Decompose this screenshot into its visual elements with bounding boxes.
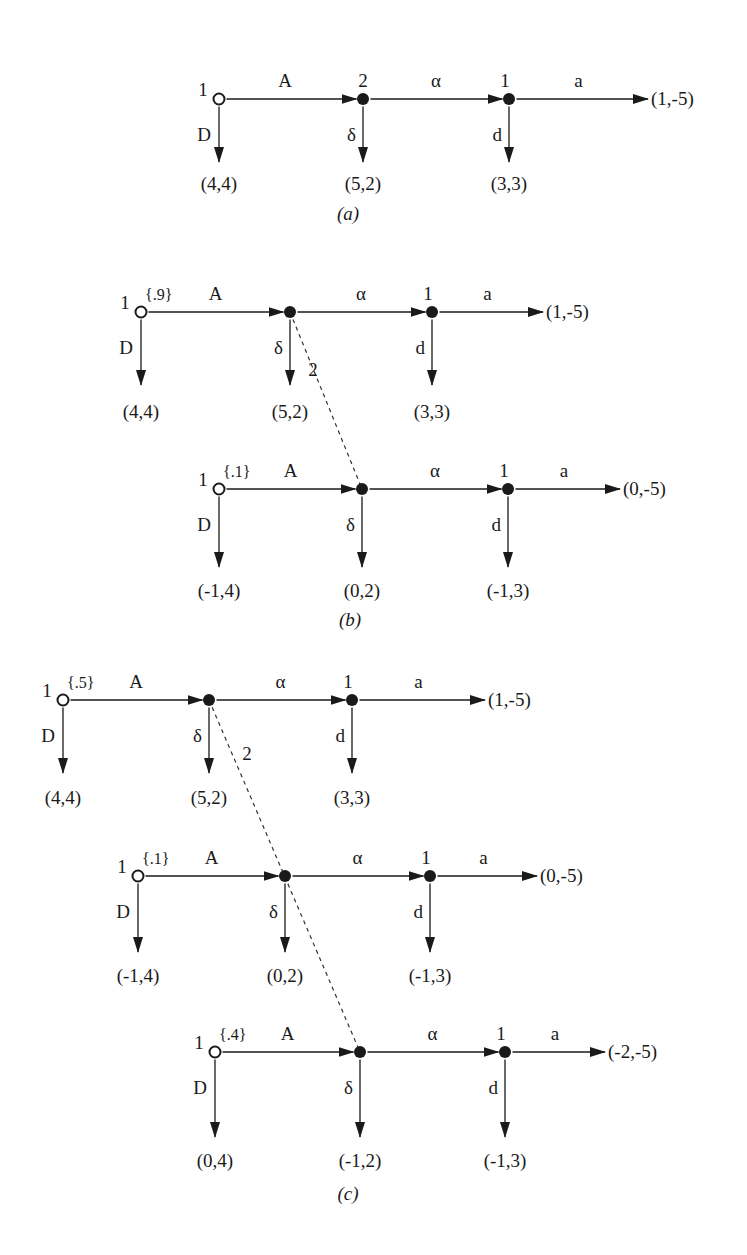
- figure-caption: (a): [337, 203, 359, 225]
- move-label-A: A: [281, 1023, 295, 1044]
- player-label: 1: [423, 283, 433, 304]
- payoff-a: (0,-5): [623, 478, 666, 500]
- move-label-a: a: [560, 460, 569, 481]
- payoff-D: (0,4): [197, 1150, 233, 1172]
- payoff-D: (4,4): [123, 401, 159, 423]
- decision-node-filled: [424, 870, 436, 882]
- move-label-alpha: α: [353, 847, 363, 868]
- prior-probability: {.9}: [145, 286, 172, 303]
- player-label: 1: [198, 79, 208, 100]
- payoff-d: (3,3): [334, 787, 370, 809]
- payoff-D: (4,4): [201, 173, 237, 195]
- move-label-d: d: [416, 337, 426, 358]
- move-label-delta: δ: [346, 514, 355, 535]
- move-label-delta: δ: [193, 725, 202, 746]
- decision-node-filled: [502, 483, 514, 495]
- decision-node-open: [214, 484, 225, 495]
- move-label-D: D: [119, 337, 133, 358]
- move-label-alpha: α: [431, 70, 441, 91]
- move-label-alpha: α: [356, 283, 366, 304]
- move-label-A: A: [284, 460, 298, 481]
- move-label-A: A: [205, 847, 219, 868]
- move-label-alpha: α: [276, 671, 286, 692]
- game-tree: 1{.1}1AαaDδd(-1,4)(0,2)(-1,3)(0,-5): [116, 847, 582, 987]
- player-label: 1: [499, 460, 509, 481]
- payoff-D: (-1,4): [198, 580, 241, 602]
- payoff-a: (0,-5): [540, 865, 583, 887]
- game-tree: 121AαaDδd(4,4)(5,2)(3,3)(1,-5): [197, 70, 693, 195]
- move-label-alpha: α: [428, 1023, 438, 1044]
- figure-caption: (b): [339, 609, 361, 631]
- payoff-a: (1,-5): [546, 301, 589, 323]
- payoff-d: (-1,3): [409, 965, 452, 987]
- decision-node-filled: [426, 306, 438, 318]
- figures-root: 121AαaDδd(4,4)(5,2)(3,3)(1,-5)(a)21{.9}1…: [41, 70, 693, 1205]
- payoff-a: (-2,-5): [608, 1041, 657, 1063]
- move-label-A: A: [278, 70, 292, 91]
- move-label-a: a: [483, 283, 492, 304]
- payoff-delta: (5,2): [272, 401, 308, 423]
- payoff-delta: (5,2): [345, 173, 381, 195]
- decision-node-filled: [354, 1046, 366, 1058]
- player-label: 1: [343, 671, 353, 692]
- decision-node-open: [214, 94, 225, 105]
- move-label-alpha: α: [430, 460, 440, 481]
- move-label-D: D: [116, 901, 130, 922]
- move-label-a: a: [551, 1023, 560, 1044]
- move-label-delta: δ: [269, 901, 278, 922]
- prior-probability: {.5}: [67, 674, 94, 691]
- payoff-d: (3,3): [414, 401, 450, 423]
- payoff-delta: (5,2): [191, 787, 227, 809]
- move-label-A: A: [129, 671, 143, 692]
- payoff-d: (-1,3): [484, 1150, 527, 1172]
- move-label-delta: δ: [274, 337, 283, 358]
- move-label-A: A: [209, 283, 223, 304]
- move-label-D: D: [193, 1077, 207, 1098]
- move-label-d: d: [336, 725, 346, 746]
- payoff-a: (1,-5): [488, 689, 531, 711]
- player-label: 1: [500, 70, 510, 91]
- payoff-d: (3,3): [491, 173, 527, 195]
- decision-node-open: [58, 695, 69, 706]
- player-label: 2: [358, 70, 368, 91]
- move-label-d: d: [414, 901, 424, 922]
- prior-probability: {.1}: [142, 850, 169, 867]
- player-label: 1: [496, 1023, 506, 1044]
- game-tree: 1{.4}1AαaDδd(0,4)(-1,2)(-1,3)(-2,-5): [193, 1023, 657, 1172]
- move-label-delta: δ: [347, 124, 356, 145]
- player-label: 1: [198, 469, 208, 490]
- figure-b: 21{.9}1AαaDδd(4,4)(5,2)(3,3)(1,-5)1{.1}1…: [119, 283, 665, 631]
- move-label-delta: δ: [344, 1077, 353, 1098]
- player-label: 1: [194, 1032, 204, 1053]
- move-label-D: D: [197, 514, 211, 535]
- figure-c: 21{.5}1AαaDδd(4,4)(5,2)(3,3)(1,-5)1{.1}1…: [41, 671, 657, 1205]
- move-label-d: d: [493, 124, 503, 145]
- payoff-D: (-1,4): [117, 965, 160, 987]
- decision-node-filled: [356, 483, 368, 495]
- decision-node-filled: [503, 93, 515, 105]
- decision-node-open: [210, 1047, 221, 1058]
- move-label-a: a: [574, 70, 583, 91]
- decision-node-filled: [203, 694, 215, 706]
- payoff-D: (4,4): [45, 787, 81, 809]
- payoff-d: (-1,3): [487, 580, 530, 602]
- game-tree: 1{.5}1AαaDδd(4,4)(5,2)(3,3)(1,-5): [41, 671, 530, 809]
- player-label: 1: [42, 680, 52, 701]
- player-label: 1: [117, 856, 127, 877]
- payoff-delta: (-1,2): [339, 1150, 382, 1172]
- move-label-a: a: [479, 847, 488, 868]
- figure-caption: (c): [337, 1183, 358, 1205]
- game-tree-figure: 121AαaDδd(4,4)(5,2)(3,3)(1,-5)(a)21{.9}1…: [0, 0, 747, 1255]
- player-label: 1: [421, 847, 431, 868]
- prior-probability: {.1}: [223, 463, 250, 480]
- move-label-D: D: [197, 124, 211, 145]
- game-tree: 1{.9}1AαaDδd(4,4)(5,2)(3,3)(1,-5): [119, 283, 588, 423]
- payoff-delta: (0,2): [344, 580, 380, 602]
- prior-probability: {.4}: [219, 1026, 246, 1043]
- move-label-a: a: [414, 671, 423, 692]
- player-label: 1: [120, 292, 130, 313]
- info-set-player-label: 2: [308, 359, 318, 380]
- decision-node-filled: [346, 694, 358, 706]
- decision-node-open: [136, 307, 147, 318]
- decision-node-filled: [499, 1046, 511, 1058]
